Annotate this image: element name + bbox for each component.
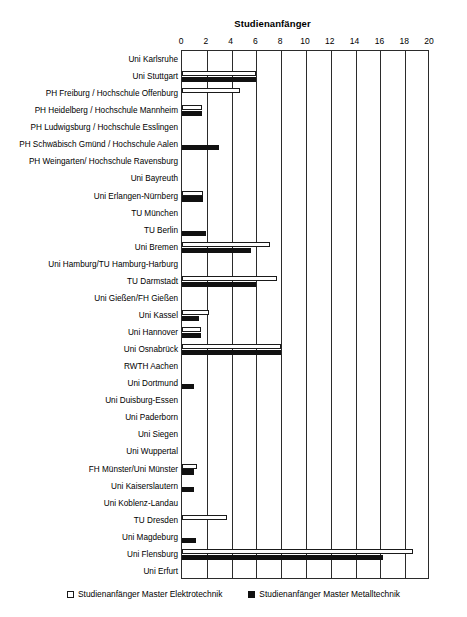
bar-elektrotechnik — [182, 191, 203, 196]
bar-row: Uni Erlangen-Nürnberg — [182, 188, 428, 205]
category-label: Uni Dortmund — [127, 375, 182, 392]
bar-row: Uni Karlsruhe — [182, 51, 428, 68]
bar-row: Uni Magdeburg — [182, 529, 428, 546]
x-tick-label: 8 — [278, 36, 283, 46]
bar-row: Uni Bremen — [182, 239, 428, 256]
category-label: Uni Duisburg-Essen — [105, 392, 182, 409]
category-label: Uni Koblenz-Landau — [104, 495, 182, 512]
legend-item-elektrotechnik: Studienanfänger Master Elektrotechnik — [67, 589, 222, 599]
category-label: PH Weingarten/ Hochschule Ravensburg — [29, 153, 182, 170]
bar-row: Uni Koblenz-Landau — [182, 495, 428, 512]
bar-row: FH Münster/Uni Münster — [182, 461, 428, 478]
bar-row: Uni Bayreuth — [182, 170, 428, 187]
bar-row: Uni Hamburg/TU Hamburg-Harburg — [182, 256, 428, 273]
bar-row: Uni Gießen/FH Gießen — [182, 290, 428, 307]
x-tick-label: 12 — [325, 36, 334, 46]
category-label: Uni Wuppertal — [126, 443, 182, 460]
bar-metalltechnik — [182, 111, 202, 116]
category-label: PH Heidelberg / Hochschule Mannheim — [35, 102, 182, 119]
category-label: Uni Hamburg/TU Hamburg-Harburg — [48, 256, 182, 273]
bar-row: Uni Osnabrück — [182, 341, 428, 358]
bar-row: PH Schwäbisch Gmünd / Hochschule Aalen — [182, 136, 428, 153]
bar-row: Uni Kassel — [182, 307, 428, 324]
bar-row: Uni Kaiserslautern — [182, 478, 428, 495]
bar-metalltechnik — [182, 350, 281, 355]
bar-elektrotechnik — [182, 344, 281, 349]
category-label: Uni Erlangen-Nürnberg — [94, 188, 182, 205]
bar-row: RWTH Aachen — [182, 358, 428, 375]
bar-row: Uni Paderborn — [182, 409, 428, 426]
chart-title: Studienanfänger — [0, 18, 467, 29]
bar-row: TU Berlin — [182, 222, 428, 239]
bar-elektrotechnik — [182, 515, 227, 520]
category-label: PH Schwäbisch Gmünd / Hochschule Aalen — [19, 136, 182, 153]
category-label: Uni Osnabrück — [124, 341, 182, 358]
x-tick-label: 4 — [228, 36, 233, 46]
category-label: Uni Erfurt — [143, 563, 182, 580]
bar-elektrotechnik — [182, 71, 256, 76]
category-label: Uni Kassel — [139, 307, 182, 324]
category-label: Uni Flensburg — [127, 546, 182, 563]
bar-metalltechnik — [182, 487, 194, 492]
bar-elektrotechnik — [182, 549, 413, 554]
category-label: TU Darmstadt — [127, 273, 182, 290]
bar-metalltechnik — [182, 555, 383, 560]
category-label: Uni Bremen — [135, 239, 182, 256]
category-label: Uni Kaiserslautern — [111, 478, 182, 495]
bar-row: TU Darmstadt — [182, 273, 428, 290]
bar-metalltechnik — [182, 384, 194, 389]
bar-row: TU München — [182, 205, 428, 222]
bar-elektrotechnik — [182, 276, 277, 281]
plot-area: Uni KarlsruheUni StuttgartPH Freiburg / … — [181, 50, 429, 579]
category-label: TU München — [131, 205, 182, 222]
category-label: PH Ludwigsburg / Hochschule Esslingen — [31, 119, 182, 136]
bar-row: PH Freiburg / Hochschule Offenburg — [182, 85, 428, 102]
x-axis-tick-labels: 02468101214161820 — [181, 36, 439, 48]
bar-row: PH Ludwigsburg / Hochschule Esslingen — [182, 119, 428, 136]
bar-row: Uni Flensburg — [182, 546, 428, 563]
x-tick-label: 16 — [375, 36, 384, 46]
category-label: Uni Siegen — [138, 426, 182, 443]
bar-metalltechnik — [182, 538, 196, 543]
bar-elektrotechnik — [182, 310, 209, 315]
x-tick-label: 0 — [179, 36, 184, 46]
bar-metalltechnik — [182, 282, 256, 287]
bar-row: Uni Dortmund — [182, 375, 428, 392]
category-label: Uni Stuttgart — [132, 68, 182, 85]
bar-row: PH Heidelberg / Hochschule Mannheim — [182, 102, 428, 119]
bar-row: Uni Wuppertal — [182, 443, 428, 460]
legend-swatch-icon — [248, 591, 255, 598]
bar-elektrotechnik — [182, 464, 197, 469]
category-label: FH Münster/Uni Münster — [89, 461, 182, 478]
bar-metalltechnik — [182, 248, 251, 253]
legend-item-metalltechnik: Studienanfänger Master Metalltechnik — [248, 589, 400, 599]
category-label: Uni Gießen/FH Gießen — [94, 290, 182, 307]
bar-metalltechnik — [182, 145, 219, 150]
bar-elektrotechnik — [182, 105, 202, 110]
bar-elektrotechnik — [182, 242, 270, 247]
category-label: Uni Magdeburg — [122, 529, 182, 546]
bar-row: Uni Siegen — [182, 426, 428, 443]
bar-metalltechnik — [182, 231, 206, 236]
category-label: Uni Hannover — [128, 324, 182, 341]
bar-metalltechnik — [182, 196, 203, 201]
category-label: RWTH Aachen — [124, 358, 182, 375]
bar-metalltechnik — [182, 77, 256, 82]
legend-label: Studienanfänger Master Elektrotechnik — [78, 589, 222, 599]
bar-elektrotechnik — [182, 327, 201, 332]
bar-row: PH Weingarten/ Hochschule Ravensburg — [182, 153, 428, 170]
bar-elektrotechnik — [182, 88, 240, 93]
category-label: TU Dresden — [134, 512, 182, 529]
x-tick-label: 2 — [203, 36, 208, 46]
bar-row: Uni Hannover — [182, 324, 428, 341]
bar-row: Uni Stuttgart — [182, 68, 428, 85]
x-tick-label: 20 — [424, 36, 433, 46]
legend-swatch-icon — [67, 591, 74, 598]
bar-rows: Uni KarlsruheUni StuttgartPH Freiburg / … — [182, 51, 428, 578]
category-label: TU Berlin — [144, 222, 182, 239]
category-label: Uni Karlsruhe — [128, 51, 182, 68]
bar-row: TU Dresden — [182, 512, 428, 529]
x-tick-label: 14 — [350, 36, 359, 46]
legend-label: Studienanfänger Master Metalltechnik — [259, 589, 400, 599]
bar-metalltechnik — [182, 316, 199, 321]
